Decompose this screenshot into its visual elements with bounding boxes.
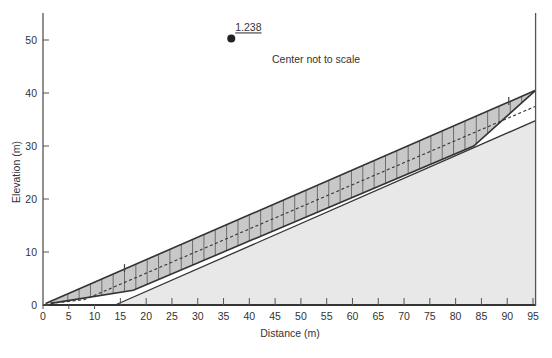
x-tick-label: 95 bbox=[527, 310, 539, 322]
x-tick-label: 15 bbox=[115, 310, 127, 322]
y-tick-label: 30 bbox=[25, 140, 37, 152]
x-tick-label: 85 bbox=[476, 310, 488, 322]
x-tick-label: 10 bbox=[89, 310, 101, 322]
x-tick-label: 80 bbox=[450, 310, 462, 322]
x-tick-label: 20 bbox=[140, 310, 152, 322]
x-tick-label: 70 bbox=[398, 310, 410, 322]
y-tick-label: 20 bbox=[25, 193, 37, 205]
x-tick-label: 60 bbox=[347, 310, 359, 322]
y-tick-label: 10 bbox=[25, 246, 37, 258]
x-tick-label: 50 bbox=[295, 310, 307, 322]
x-tick-label: 90 bbox=[501, 310, 513, 322]
x-tick-label: 65 bbox=[372, 310, 384, 322]
x-axis-title: Distance (m) bbox=[260, 327, 320, 339]
x-tick-label: 25 bbox=[166, 310, 178, 322]
y-axis-title: Elevation (m) bbox=[10, 141, 22, 203]
x-tick-label: 75 bbox=[424, 310, 436, 322]
factor-of-safety-label: 1.238 bbox=[235, 21, 261, 33]
x-tick-label: 55 bbox=[321, 310, 333, 322]
x-tick-label: 35 bbox=[218, 310, 230, 322]
center-not-to-scale-note: Center not to scale bbox=[272, 53, 360, 65]
x-tick-label: 0 bbox=[40, 310, 46, 322]
y-tick-label: 0 bbox=[31, 299, 37, 311]
x-tick-label: 45 bbox=[269, 310, 281, 322]
x-tick-label: 5 bbox=[66, 310, 72, 322]
y-tick-label: 40 bbox=[25, 87, 37, 99]
y-tick-label: 50 bbox=[25, 34, 37, 46]
x-tick-label: 30 bbox=[192, 310, 204, 322]
slope-stability-diagram: 05101520253035404550556065707580859095 0… bbox=[0, 0, 552, 358]
slip-center-point bbox=[227, 34, 235, 42]
x-tick-label: 40 bbox=[243, 310, 255, 322]
y-axis-ticks: 01020304050 bbox=[25, 34, 49, 311]
